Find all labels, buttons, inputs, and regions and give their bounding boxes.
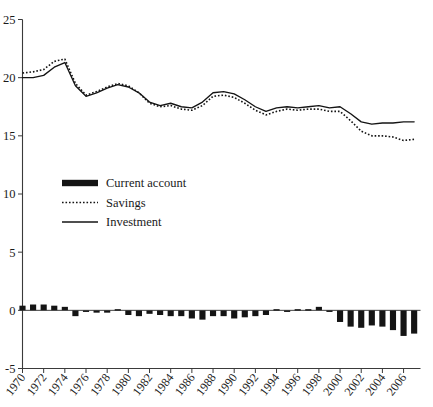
bar-current-account	[146, 310, 152, 313]
y-tick-label: 25	[3, 13, 16, 27]
bar-current-account	[316, 307, 322, 310]
x-tick-label: 1982	[130, 371, 156, 399]
x-tick-label: 1984	[151, 371, 177, 399]
x-tick-label: 2002	[341, 371, 367, 399]
legend-label: Savings	[106, 196, 146, 210]
bar-current-account	[348, 310, 354, 326]
chart-container: -50510152025 197019721974197619781980198…	[0, 0, 433, 407]
bar-current-account	[390, 310, 396, 330]
y-tick-label: 20	[3, 71, 16, 85]
series-lines	[23, 59, 415, 140]
legend-label: Current account	[106, 176, 187, 190]
legend-swatch-current-account	[62, 180, 98, 186]
bar-current-account	[221, 310, 227, 316]
line-savings	[23, 59, 415, 140]
bar-current-account	[411, 310, 417, 333]
current-account-bars	[19, 305, 417, 336]
x-tick-label: 1998	[299, 371, 325, 399]
y-tick-label: 15	[3, 129, 16, 143]
bar-current-account	[337, 310, 343, 322]
line-investment	[23, 63, 415, 125]
x-tick-label: 2006	[384, 371, 410, 399]
bar-current-account	[157, 310, 163, 315]
bar-current-account	[210, 310, 216, 316]
bar-current-account	[41, 305, 47, 311]
bar-current-account	[19, 306, 25, 311]
x-tick-label: 1994	[257, 371, 283, 399]
x-tick-label: 1988	[193, 371, 219, 399]
x-tick-label: 1978	[87, 371, 113, 399]
bar-current-account	[252, 310, 258, 316]
y-axis-ticks: -50510152025	[3, 13, 23, 376]
x-tick-label: 1980	[108, 371, 134, 399]
y-tick-label: 10	[3, 187, 16, 201]
bar-current-account	[30, 305, 36, 311]
bar-current-account	[199, 310, 205, 319]
bar-current-account	[242, 310, 248, 317]
x-tick-label: 1972	[24, 371, 50, 399]
bar-current-account	[263, 310, 269, 315]
bar-current-account	[125, 310, 131, 315]
bar-current-account	[178, 310, 184, 316]
x-axis-ticks: 1970197219741976197819801982198419861988…	[3, 369, 410, 399]
bar-current-account	[136, 310, 142, 316]
bar-current-account	[358, 310, 364, 327]
x-tick-label: 1976	[66, 371, 92, 399]
x-tick-label: 1990	[214, 371, 240, 399]
bar-current-account	[379, 310, 385, 326]
legend-label: Investment	[106, 215, 162, 229]
x-tick-label: 1974	[45, 371, 71, 399]
bar-current-account	[231, 310, 237, 318]
chart-legend: Current accountSavingsInvestment	[62, 176, 187, 229]
y-tick-label: 5	[9, 246, 15, 260]
bar-current-account	[189, 310, 195, 318]
bar-current-account	[400, 310, 406, 336]
x-tick-label: 2004	[362, 371, 388, 399]
bar-current-account	[51, 306, 57, 311]
x-tick-label: 1986	[172, 371, 198, 399]
y-tick-label: 0	[9, 304, 15, 318]
bar-current-account	[168, 310, 174, 316]
x-tick-label: 1996	[278, 371, 304, 399]
x-tick-label: 1992	[235, 371, 261, 399]
bar-current-account	[369, 310, 375, 325]
bar-current-account	[62, 307, 68, 310]
x-tick-label: 2000	[320, 371, 346, 399]
bar-current-account	[72, 310, 78, 316]
savings-investment-current-account-chart: -50510152025 197019721974197619781980198…	[0, 0, 433, 407]
